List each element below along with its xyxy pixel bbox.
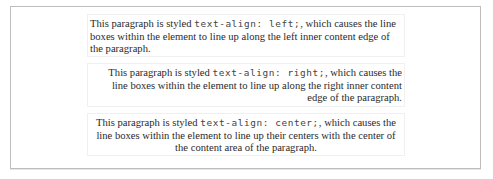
paragraph-text-before: This paragraph is styled	[108, 67, 212, 78]
paragraph-right-aligned: This paragraph is styled text-align: rig…	[87, 63, 405, 107]
paragraph-left-aligned: This paragraph is styled text-align: lef…	[87, 14, 405, 57]
code-snippet: text-align: right;	[213, 67, 325, 78]
paragraph-text-before: This paragraph is styled	[90, 18, 194, 29]
code-snippet: text-align: center;	[200, 117, 319, 128]
paragraph-text-before: This paragraph is styled	[96, 117, 200, 128]
paragraph-center-aligned: This paragraph is styled text-align: cen…	[87, 113, 405, 156]
code-snippet: text-align: left;	[194, 18, 300, 29]
